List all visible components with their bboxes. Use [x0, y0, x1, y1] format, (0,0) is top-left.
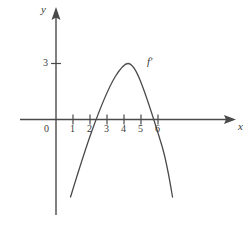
y-axis-label: y: [41, 4, 46, 15]
y-tick-label-3: 3: [43, 58, 48, 68]
y-axis: [52, 7, 61, 215]
x-tick-label-3: 3: [104, 124, 109, 134]
x-tick-label-4: 4: [121, 124, 126, 134]
x-tick-label-2: 2: [87, 124, 92, 134]
curve-label-f-prime: f': [147, 56, 152, 67]
x-axis-label: x: [238, 121, 243, 132]
origin-label: 0: [44, 124, 49, 134]
graph-canvas: [0, 0, 249, 228]
graph-figure: y x 0 3 1 2 3 4 5 6 f': [0, 0, 249, 228]
x-tick-label-5: 5: [138, 124, 143, 134]
x-axis: [20, 115, 236, 124]
x-tick-label-6: 6: [155, 124, 160, 134]
x-tick-label-1: 1: [70, 124, 75, 134]
